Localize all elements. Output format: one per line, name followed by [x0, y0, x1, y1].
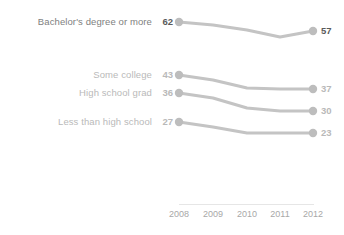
series-line-some-college: [179, 75, 313, 89]
end-value-less-than-hs: 23: [321, 127, 332, 138]
end-value-bachelors: 57: [321, 25, 332, 36]
end-value-some-college: 37: [321, 83, 332, 94]
x-tick-2008: 2008: [164, 209, 194, 219]
data-point-hs-grad-2012: [309, 107, 317, 115]
line-chart: Bachelor's degree or more Some college H…: [0, 0, 344, 235]
series-label-hs-grad: High school grad: [79, 87, 152, 98]
start-value-less-than-hs: 27: [162, 116, 173, 127]
start-value-bachelors: 62: [162, 16, 173, 27]
data-point-some-college-2012: [309, 85, 317, 93]
data-point-bachelors-2012: [309, 27, 317, 35]
start-value-some-college: 43: [162, 69, 173, 80]
series-label-less-than-hs: Less than high school: [58, 116, 152, 127]
x-tick-2009: 2009: [198, 209, 228, 219]
data-point-some-college-2008: [175, 71, 183, 79]
x-tick-2011: 2011: [265, 209, 295, 219]
end-value-hs-grad: 30: [321, 105, 332, 116]
series-line-less-than-hs: [179, 122, 313, 133]
data-point-less-than-hs-2008: [175, 118, 183, 126]
series-label-bachelors: Bachelor's degree or more: [38, 16, 152, 27]
x-tick-2010: 2010: [232, 209, 262, 219]
series-line-bachelors: [179, 22, 313, 37]
data-point-less-than-hs-2012: [309, 129, 317, 137]
series-line-hs-grad: [179, 93, 313, 111]
x-tick-2012: 2012: [298, 209, 328, 219]
data-point-bachelors-2008: [175, 18, 183, 26]
series-label-some-college: Some college: [93, 69, 152, 80]
data-point-hs-grad-2008: [175, 89, 183, 97]
start-value-hs-grad: 36: [162, 87, 173, 98]
